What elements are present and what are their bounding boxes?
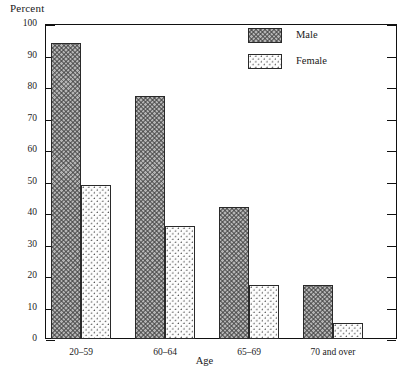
y-tick-label: 80 xyxy=(7,82,37,92)
y-tick-mark-right xyxy=(387,120,396,121)
bar-male-0 xyxy=(51,43,81,339)
y-axis-title: Percent xyxy=(10,2,44,14)
y-tick-mark-right xyxy=(387,309,396,310)
legend-label-male: Male xyxy=(296,29,318,40)
y-tick-mark-left xyxy=(46,25,55,26)
y-tick-mark-right xyxy=(387,25,396,26)
y-tick-label: 30 xyxy=(7,240,37,250)
y-tick-mark-right xyxy=(387,246,396,247)
y-tick-mark-right xyxy=(387,214,396,215)
y-tick-mark-right xyxy=(387,277,396,278)
bar-male-1 xyxy=(135,96,165,339)
legend-swatch-male xyxy=(248,28,282,43)
bar-male-2 xyxy=(219,207,249,339)
y-tick-label: 60 xyxy=(7,145,37,155)
y-tick-mark-right xyxy=(387,183,396,184)
y-tick-label: 20 xyxy=(7,271,37,281)
bar-female-0 xyxy=(81,185,111,339)
legend-label-female: Female xyxy=(296,55,327,66)
y-tick-label: 100 xyxy=(7,19,37,29)
bar-male-3 xyxy=(303,285,333,339)
y-tick-label: 50 xyxy=(7,177,37,187)
legend-swatch-female xyxy=(248,54,282,69)
x-axis-title: Age xyxy=(0,355,409,366)
y-tick-label: 10 xyxy=(7,303,37,313)
y-tick-label: 0 xyxy=(7,334,37,344)
bar-female-3 xyxy=(333,323,363,339)
y-tick-label: 70 xyxy=(7,114,37,124)
bar-chart-figure: Percent 0102030405060708090100 20–5960–6… xyxy=(0,0,409,372)
y-tick-label: 90 xyxy=(7,51,37,61)
bar-female-1 xyxy=(165,226,195,339)
y-tick-mark-right xyxy=(387,340,396,341)
y-tick-mark-right xyxy=(387,88,396,89)
y-tick-mark-right xyxy=(387,151,396,152)
y-tick-mark-right xyxy=(387,57,396,58)
y-tick-mark-left xyxy=(46,340,55,341)
bar-female-2 xyxy=(249,285,279,339)
y-tick-label: 40 xyxy=(7,208,37,218)
